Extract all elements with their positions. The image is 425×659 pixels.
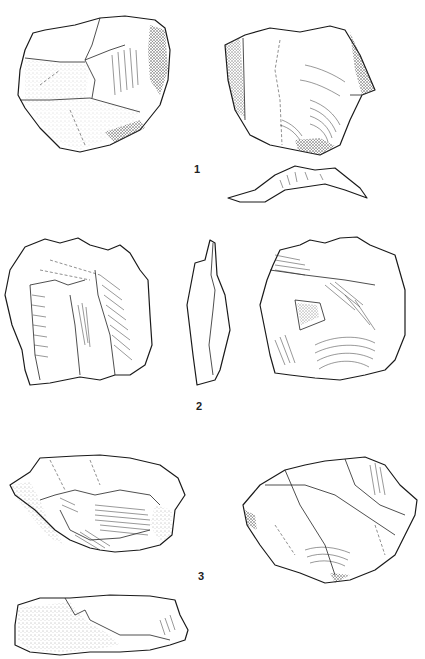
lithic-illustration-plate: 1 2 [0,0,425,659]
figure-1-number-label: 1 [194,163,200,175]
figure-3-dorsal-view [0,450,200,560]
figure-3-profile-view [10,590,195,659]
figure-1-dorsal-view [0,0,210,160]
figure-2-lateral-profile [175,235,245,395]
figure-2-number-label: 2 [196,400,202,412]
figure-2-ventral-view [245,235,415,395]
figure-3-number-label: 3 [198,570,204,582]
figure-2-dorsal-view [0,235,170,395]
figure-3-ventral-view [235,455,420,590]
figure-1-ventral-view [210,0,425,160]
figure-1-profile-view [225,160,375,205]
